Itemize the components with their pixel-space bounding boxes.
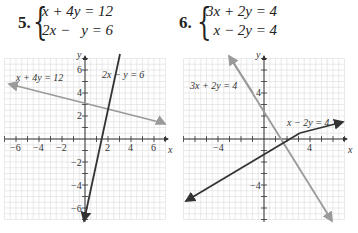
tick-label: −4	[33, 142, 44, 153]
line-label: x − 2y = 4	[286, 117, 329, 128]
graph-5: x y −6 −4 −2 2 4 6 6 4 2 −2 −4 −6 x + 4y…	[0, 0, 358, 233]
y-axis-label: y	[255, 49, 261, 60]
tick-label: −6	[10, 142, 21, 153]
line-label: x + 4y = 12	[15, 72, 63, 83]
tick-label: 2	[77, 110, 82, 121]
tick-label: 4	[128, 142, 133, 153]
arrow-icon	[163, 123, 165, 124]
tick-label: 4	[307, 142, 312, 153]
line-x-plus-4y-eq-12	[9, 84, 163, 123]
tick-label: −4	[213, 142, 224, 153]
tick-label: 2	[105, 142, 110, 153]
line-label: 3x + 2y = 4	[189, 80, 237, 91]
tick-label: 6	[77, 64, 82, 75]
x-axis-label: x	[167, 144, 173, 155]
x-axis-label: x	[347, 144, 353, 155]
tick-label: −6	[71, 203, 82, 214]
line-label: 2x − y = 6	[102, 69, 144, 80]
tick-label: 4	[77, 87, 82, 98]
tick-label: −2	[56, 142, 67, 153]
y-axis-label: y	[76, 49, 82, 60]
tick-label: 4	[256, 87, 261, 98]
tick-label: −2	[71, 157, 82, 168]
tick-label: −4	[71, 180, 82, 191]
tick-label: −4	[250, 180, 261, 191]
tick-label: 6	[151, 142, 156, 153]
